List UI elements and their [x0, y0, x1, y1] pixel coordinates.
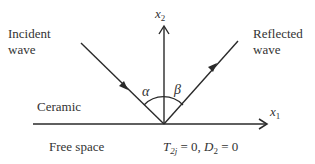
ceramic-label: Ceramic [37, 99, 81, 114]
alpha-angle-label: α [142, 84, 149, 99]
x1-axis-label: x1 [270, 104, 280, 124]
reflected-arrow-icon [208, 63, 217, 72]
reflected-wave-label-1: Reflected [253, 26, 303, 41]
x2-axis-label: x2 [155, 6, 165, 26]
reflected-wave-label-2: wave [253, 42, 280, 57]
incident-wave-label-2: wave [8, 42, 35, 57]
incident-wave-label-1: Incident [8, 26, 51, 41]
beta-angle-label: β [174, 82, 181, 97]
boundary-condition-label: T2j = 0, D2 = 0 [163, 139, 238, 159]
free-space-label: Free space [49, 139, 104, 154]
